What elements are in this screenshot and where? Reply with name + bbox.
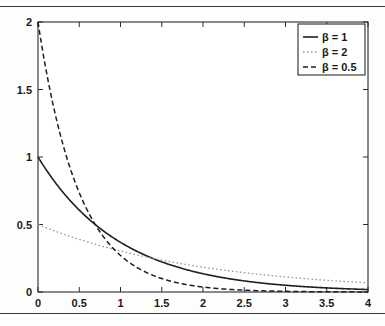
x-tick-label: 1.5	[154, 297, 169, 309]
x-tick-label: 2	[200, 297, 206, 309]
y-tick-label: 0.5	[17, 219, 32, 231]
y-axis-tick-labels: 00.511.52	[17, 16, 32, 298]
y-tick-label: 0	[26, 286, 32, 298]
y-tick-label: 2	[26, 16, 32, 28]
y-tick-label: 1	[26, 151, 32, 163]
legend-label-beta-0.5: β = 0.5	[322, 61, 357, 73]
chart-legend: β = 1β = 2β = 0.5	[298, 24, 365, 75]
x-axis-tick-labels: 00.511.522.533.54	[35, 297, 372, 309]
x-tick-label: 2.5	[237, 297, 252, 309]
x-tick-label: 4	[365, 297, 372, 309]
exponential-pdf-chart: 00.511.522.533.54 00.511.52 β = 1β = 2β …	[0, 0, 385, 326]
figure-container: 00.511.522.533.54 00.511.52 β = 1β = 2β …	[0, 0, 385, 326]
x-tick-label: 3.5	[319, 297, 334, 309]
x-tick-label: 3	[282, 297, 288, 309]
x-tick-label: 0.5	[72, 297, 87, 309]
legend-label-beta-2: β = 2	[322, 46, 347, 58]
y-tick-label: 1.5	[17, 84, 32, 96]
x-tick-label: 1	[117, 297, 123, 309]
legend-label-beta-1: β = 1	[322, 31, 347, 43]
x-tick-label: 0	[35, 297, 41, 309]
